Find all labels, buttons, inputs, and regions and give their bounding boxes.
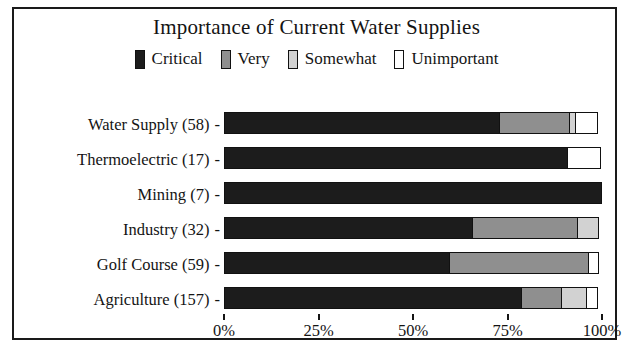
legend-label-unimportant: Unimportant [411, 49, 498, 69]
bar-segment-somewhat [561, 287, 587, 309]
plot-area [224, 106, 602, 311]
bar-segment-very [449, 252, 589, 274]
y-axis-tick-dash: - [215, 185, 221, 205]
table-row [224, 217, 602, 239]
y-axis-label-golf-course: Golf Course (59)- [20, 255, 220, 275]
table-row [224, 147, 602, 169]
x-axis-tick-label: 0% [213, 321, 235, 341]
table-row [224, 287, 602, 309]
bar-segment-very [499, 112, 571, 134]
x-axis-tick-label: 25% [303, 321, 333, 341]
bar-segment-unimportant [567, 147, 601, 169]
x-axis-tick-mark [601, 314, 603, 320]
bar-segment-critical [224, 252, 451, 274]
table-row [224, 182, 602, 204]
x-axis-tick-mark [507, 314, 509, 320]
x-axis-tick-mark [412, 314, 414, 320]
x-axis-tick-mark [223, 314, 225, 320]
x-axis-tick-label: 100% [583, 321, 622, 341]
bar-segment-unimportant [586, 287, 597, 309]
bar-segment-critical [224, 217, 473, 239]
hollow-white-square-icon [394, 50, 404, 69]
bar-segment-critical [224, 112, 500, 134]
y-axis-labels: Water Supply (58)- Thermoelectric (17)- … [14, 9, 220, 342]
y-axis-tick-dash: - [215, 290, 221, 310]
bar-segment-somewhat [577, 217, 600, 239]
legend-item-unimportant: Unimportant [394, 49, 498, 69]
bar-segment-very [521, 287, 563, 309]
x-axis: 0%25%50%75%100% [224, 314, 602, 340]
y-axis-tick-dash: - [215, 115, 221, 135]
filled-lightgray-square-icon [288, 50, 298, 69]
y-axis-label-text: Golf Course (59) [97, 255, 210, 274]
y-axis-label-thermoelectric: Thermoelectric (17)- [20, 150, 220, 170]
bar-segment-critical [224, 147, 568, 169]
table-row [224, 252, 602, 274]
y-axis-label-text: Water Supply (58) [88, 115, 209, 134]
y-axis-tick-dash: - [215, 150, 221, 170]
chart-container: Importance of Current Water Supplies Cri… [12, 7, 617, 340]
bar-segment-unimportant [575, 112, 598, 134]
y-axis-label-text: Industry (32) [123, 220, 210, 239]
y-axis-label-text: Mining (7) [138, 185, 210, 204]
x-axis-tick-label: 50% [398, 321, 428, 341]
x-axis-tick-mark [318, 314, 320, 320]
legend-label-very: Very [238, 49, 270, 69]
y-axis-tick-dash: - [215, 255, 221, 275]
y-axis-label-agriculture: Agriculture (157)- [20, 290, 220, 310]
filled-gray-square-icon [221, 50, 231, 69]
legend-label-somewhat: Somewhat [305, 49, 377, 69]
x-axis-tick-label: 75% [492, 321, 522, 341]
y-axis-label-text: Agriculture (157) [94, 290, 210, 309]
legend-item-very: Very [221, 49, 270, 69]
table-row [224, 112, 602, 134]
bar-segment-unimportant [588, 252, 599, 274]
bar-segment-very [472, 217, 578, 239]
y-axis-label-text: Thermoelectric (17) [77, 150, 209, 169]
legend-item-somewhat: Somewhat [288, 49, 377, 69]
y-axis-label-water-supply: Water Supply (58)- [20, 115, 220, 135]
y-axis-label-industry: Industry (32)- [20, 220, 220, 240]
bar-segment-critical [224, 182, 602, 204]
bar-segment-critical [224, 287, 523, 309]
y-axis-tick-dash: - [215, 220, 221, 240]
y-axis-label-mining: Mining (7)- [20, 185, 220, 205]
